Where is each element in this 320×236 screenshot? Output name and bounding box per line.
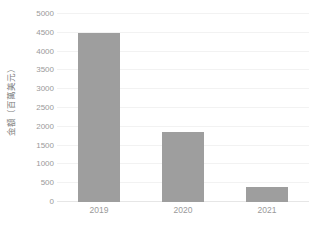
bar-chart-figure: 金額（百萬美元） 0500100015002000250030003500400… (0, 0, 320, 236)
y-axis-tick-label: 5000 (18, 10, 54, 18)
y-axis-tick-label: 1000 (18, 160, 54, 168)
plot-area (57, 14, 309, 202)
y-axis-tick-label: 500 (18, 179, 54, 187)
x-axis-tick-label-2021: 2021 (232, 206, 302, 215)
x-axis-tick-labels: 201920202021 (57, 206, 309, 222)
y-axis-tick-label: 3500 (18, 66, 54, 74)
bar-2021[interactable] (246, 187, 288, 202)
x-axis-tick-label-2019: 2019 (64, 206, 134, 215)
y-axis-tick-label: 1500 (18, 142, 54, 150)
y-axis-tick-label: 4000 (18, 48, 54, 56)
y-axis-tick-label: 0 (18, 198, 54, 206)
y-axis-tick-label: 2000 (18, 123, 54, 131)
x-axis-tick-label-2020: 2020 (148, 206, 218, 215)
y-axis-tick-labels: 0500100015002000250030003500400045005000 (18, 14, 54, 202)
y-axis-title-label: 金額（百萬美元） (7, 64, 16, 136)
y-axis-tick-label: 3000 (18, 85, 54, 93)
y-axis-tick-label: 2500 (18, 104, 54, 112)
y-axis-tick-label: 4500 (18, 29, 54, 37)
bar-2020[interactable] (162, 132, 204, 202)
bar-2019[interactable] (78, 33, 120, 202)
bars-group (57, 14, 309, 202)
